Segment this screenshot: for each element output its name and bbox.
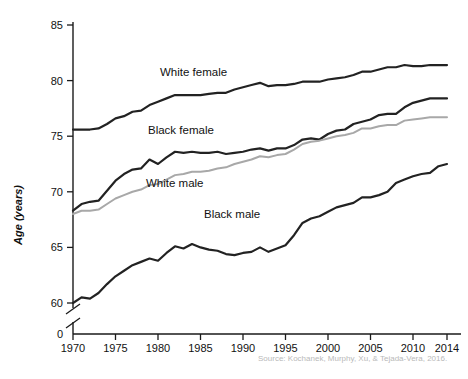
y-axis-title: Age (years) <box>12 185 24 246</box>
life-expectancy-chart: 6065707580850197019751980198519901995200… <box>0 0 468 379</box>
source-note: Source: Kochanek, Murphy, Xu, & Tejada-V… <box>258 354 447 363</box>
chart-text-layer: Age (years) Source: Kochanek, Murphy, Xu… <box>0 0 468 379</box>
